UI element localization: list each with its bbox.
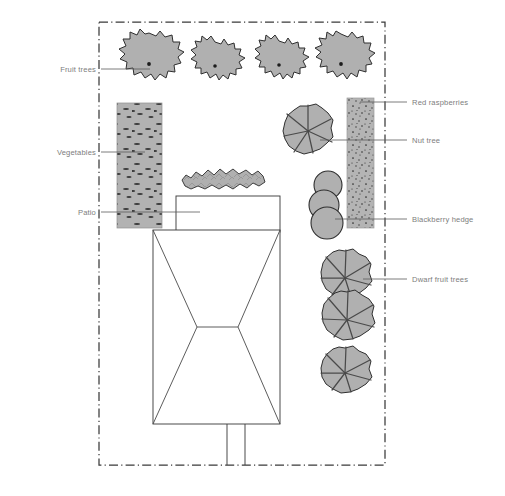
dwarf-tree-canopy	[321, 249, 372, 298]
patio-area	[176, 196, 280, 232]
dwarf-fruit-tree-group	[321, 249, 375, 393]
label-vegetables: Vegetables	[57, 148, 96, 157]
dwarf-tree-canopy	[321, 346, 372, 393]
garden-plan-svg: Fruit trees Vegetables Patio Red raspber…	[0, 0, 505, 496]
fruit-tree-canopy	[191, 36, 245, 80]
fruit-tree-1	[119, 29, 184, 80]
fruit-tree-center-dot	[213, 64, 217, 68]
fruit-tree-canopy	[315, 31, 375, 79]
fruit-tree-center-dot	[147, 62, 151, 66]
dwarf-tree-canopy	[322, 290, 375, 340]
label-patio: Patio	[78, 208, 96, 217]
shrub-bed	[182, 169, 265, 189]
fruit-tree-2	[191, 36, 245, 80]
house	[153, 230, 280, 424]
dwarf-fruit-tree-3	[321, 346, 372, 393]
label-fruit-trees: Fruit trees	[60, 65, 96, 74]
label-blackberry-hedge: Blackberry hedge	[412, 215, 474, 224]
dwarf-fruit-tree-1	[321, 249, 372, 298]
fruit-tree-3	[255, 35, 309, 79]
fruit-tree-center-dot	[339, 62, 343, 66]
fruit-tree-center-dot	[277, 63, 281, 67]
fruit-tree-4	[315, 31, 375, 79]
fruit-tree-canopy	[119, 29, 184, 80]
fruit-tree-group	[119, 29, 375, 80]
vegetable-bed	[117, 103, 162, 228]
fruit-tree-canopy	[255, 35, 309, 79]
dwarf-fruit-tree-2	[322, 290, 375, 340]
garden-plan: Fruit trees Vegetables Patio Red raspber…	[0, 0, 505, 496]
label-nut-tree: Nut tree	[412, 136, 440, 145]
label-red-raspberries: Red raspberries	[412, 98, 468, 107]
blackberry-circle	[311, 207, 343, 239]
front-path	[227, 424, 245, 465]
label-dwarf-fruit-trees: Dwarf fruit trees	[412, 275, 468, 284]
raspberry-strip	[347, 98, 374, 228]
blackberry-hedge	[309, 171, 343, 239]
nut-tree	[283, 104, 333, 154]
